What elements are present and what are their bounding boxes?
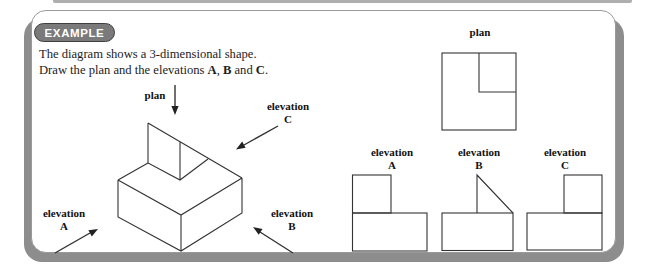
top-divider [53, 0, 632, 3]
iso-elevation-c-label: elevation C [261, 100, 315, 125]
intro-text: The diagram shows a 3-dimensional shape.… [39, 47, 309, 78]
plan-view-title: plan [450, 26, 510, 39]
elevation-b-title: elevation B [449, 146, 509, 171]
iso-plan-label: plan [139, 89, 171, 102]
iso-elevation-a-label: elevation A [37, 207, 91, 232]
intro-line-2: Draw the plan and the elevations A, B an… [39, 63, 268, 77]
elevation-c-title: elevation C [535, 146, 595, 171]
iso-elevation-b-label: elevation B [265, 207, 319, 232]
intro-line-1: The diagram shows a 3-dimensional shape. [39, 47, 257, 61]
elevation-a-title: elevation A [362, 146, 422, 171]
page: EXAMPLE The diagram shows a 3-dimensiona… [0, 0, 648, 269]
example-badge-label: EXAMPLE [45, 27, 105, 39]
example-badge: EXAMPLE [34, 23, 115, 42]
